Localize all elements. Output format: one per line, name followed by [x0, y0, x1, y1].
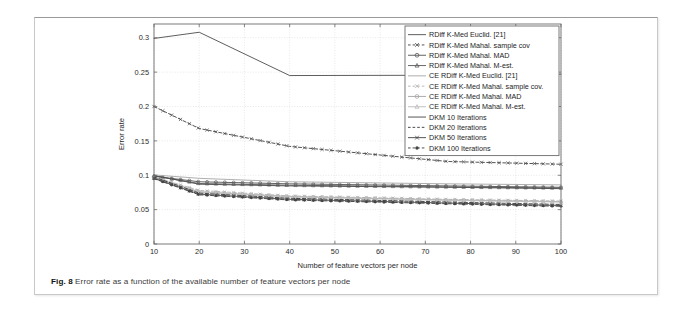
series-marker — [206, 194, 209, 197]
series-marker — [188, 190, 191, 193]
series-marker — [232, 195, 235, 198]
series-marker — [338, 200, 341, 203]
y-axis-label: Error rate — [117, 118, 126, 150]
series-marker — [418, 202, 421, 205]
y-tick-label: 0.25 — [135, 68, 149, 77]
series-marker — [259, 197, 262, 200]
legend-label: DKM 100 Iterations — [429, 144, 491, 153]
y-tick-label: 0.2 — [139, 102, 149, 111]
series-marker — [445, 202, 448, 205]
series-marker — [498, 204, 501, 207]
series-marker — [241, 196, 244, 199]
figure-caption-text: Error rate as a function of the availabl… — [73, 277, 351, 286]
series-marker — [427, 202, 430, 205]
series-marker — [188, 122, 191, 125]
series-marker — [330, 200, 333, 203]
series-marker — [507, 204, 510, 207]
series-marker — [170, 114, 173, 117]
x-tick-label: 10 — [150, 247, 158, 256]
series-marker — [515, 204, 518, 207]
series-marker — [250, 196, 253, 199]
series-marker — [542, 205, 545, 208]
series-marker — [223, 195, 226, 198]
y-tick-label: 0.05 — [135, 205, 149, 214]
legend-label: CE RDiff K-Med Mahal. MAD — [429, 92, 522, 101]
series-marker — [312, 199, 315, 202]
legend-label: RDiff K-Med Mahal. M-est. — [429, 61, 514, 70]
figure-page: 10203040506070809010000.050.10.150.20.25… — [0, 0, 692, 318]
legend-label: CE RDiff K-Med Mahal. sample cov. — [429, 82, 543, 91]
x-tick-label: 30 — [240, 247, 248, 256]
legend-label: DKM 20 Iterations — [429, 123, 487, 132]
series-marker — [161, 109, 164, 112]
series-marker — [268, 197, 271, 200]
series-marker — [524, 204, 527, 207]
series-marker — [197, 193, 200, 196]
series-marker — [347, 200, 350, 203]
series-marker — [391, 201, 394, 204]
legend-label: RDiff K-Med Mahal. MAD — [429, 51, 510, 60]
x-tick-label: 80 — [466, 247, 474, 256]
series-marker — [480, 203, 483, 206]
series-marker — [383, 201, 386, 204]
series-marker — [453, 203, 456, 206]
y-tick-label: 0.3 — [139, 33, 149, 42]
series-marker — [471, 203, 474, 206]
series-marker — [374, 201, 377, 204]
error-rate-line-chart: 10203040506070809010000.050.10.150.20.25… — [35, 18, 659, 270]
y-tick-label: 0.15 — [135, 137, 149, 146]
series-marker — [462, 203, 465, 206]
series-marker — [551, 205, 554, 208]
series-marker — [170, 184, 173, 187]
x-tick-label: 50 — [331, 247, 339, 256]
legend-label: CE RDiff K-Med Mahal. M-est. — [429, 102, 526, 111]
series-marker — [321, 199, 324, 202]
series-marker — [436, 202, 439, 205]
figure-caption: Fig. 8 Error rate as a function of the a… — [51, 276, 647, 287]
series-marker — [161, 180, 164, 183]
figure-caption-label: Fig. 8 — [51, 277, 73, 286]
series-marker — [400, 201, 403, 204]
x-axis-label: Number of feature vectors per node — [298, 261, 418, 270]
series-marker — [303, 199, 306, 202]
legend-label: CE RDiff K-Med Euclid. [21] — [429, 71, 518, 80]
series-marker — [294, 199, 297, 202]
legend-label: RDiff K-Med Mahal. sample cov — [429, 41, 530, 50]
legend-label: DKM 10 Iterations — [429, 113, 487, 122]
y-tick-label: 0.1 — [139, 171, 149, 180]
x-tick-label: 20 — [195, 247, 203, 256]
series-marker — [489, 203, 492, 206]
series-marker — [179, 118, 182, 121]
series-marker — [179, 187, 182, 190]
series-marker — [533, 204, 536, 207]
x-tick-label: 70 — [421, 247, 429, 256]
legend-marker — [415, 146, 418, 149]
series-marker — [356, 200, 359, 203]
series-marker — [276, 198, 279, 201]
y-tick-label: 0 — [145, 240, 149, 249]
series-marker — [365, 200, 368, 203]
legend-label: DKM 50 Iterations — [429, 133, 487, 142]
x-tick-label: 90 — [512, 247, 520, 256]
x-tick-label: 100 — [555, 247, 567, 256]
series-marker — [285, 198, 288, 201]
legend-label: RDiff K-Med Euclid. [21] — [429, 30, 506, 39]
x-tick-label: 60 — [376, 247, 384, 256]
series-marker — [409, 201, 412, 204]
figure-card: 10203040506070809010000.050.10.150.20.25… — [34, 17, 658, 295]
series-marker — [215, 194, 218, 197]
chart-plot-area: 10203040506070809010000.050.10.150.20.25… — [35, 18, 659, 270]
x-tick-label: 40 — [286, 247, 294, 256]
